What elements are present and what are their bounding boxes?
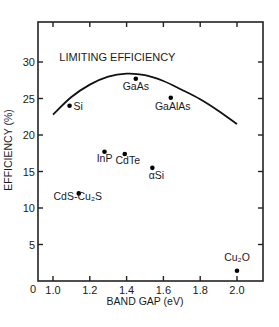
data-point-label: αSi: [149, 169, 164, 181]
y-tick-label: 20: [23, 129, 35, 141]
data-point-label: Si: [74, 100, 83, 112]
x-tick-label: 1.2: [82, 284, 97, 296]
data-point-label: InP: [97, 152, 113, 164]
data-point-marker: [67, 104, 72, 109]
x-tick-label: 1.0: [45, 284, 60, 296]
limiting-efficiency-label: LIMITING EFFICIENCY: [59, 51, 176, 63]
x-axis-ticks: 1.01.21.41.61.82.0: [45, 22, 244, 296]
y-tick-label: 15: [23, 166, 35, 178]
data-point-label: GaAs: [123, 80, 149, 92]
x-tick-label: 2.0: [229, 284, 244, 296]
y-tick-label: 10: [23, 202, 35, 214]
y-tick-label: 30: [23, 56, 35, 68]
data-point-label: GaAlAs: [155, 100, 191, 112]
data-point-label: CdTe: [116, 154, 141, 166]
y-tick-label: 25: [23, 93, 35, 105]
origin-label: 0: [30, 283, 36, 295]
y-axis-label: EFFICIENCY (%): [2, 109, 14, 190]
y-tick-label: 5: [29, 239, 35, 251]
chart-svg: 1.01.21.41.61.82.0 51015202530 SiGaAsGaA…: [0, 0, 279, 327]
efficiency-vs-bandgap-chart: 1.01.21.41.61.82.0 51015202530 SiGaAsGaA…: [0, 0, 279, 327]
data-point-label: CdS-Cu₂S: [54, 190, 102, 202]
x-tick-label: 1.8: [193, 284, 208, 296]
x-axis-label: BAND GAP (eV): [107, 295, 184, 307]
data-points: SiGaAsGaAlAsInPCdTeαSiCdS-Cu₂SCu₂O: [54, 76, 250, 273]
data-point-marker: [235, 268, 240, 273]
data-point-label: Cu₂O: [224, 251, 250, 263]
